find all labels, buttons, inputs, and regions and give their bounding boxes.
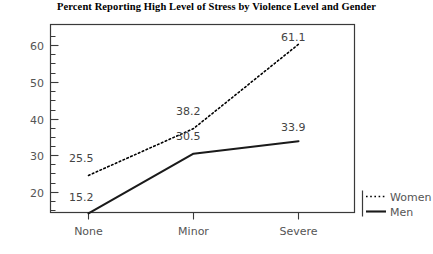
data-label-men-none: 15.2 — [69, 191, 94, 204]
x-tick-label-minor: Minor — [178, 225, 209, 238]
chart-plot-area: 60 50 40 30 20 None Minor Severe 25.5 38… — [0, 0, 433, 254]
y-tick-label-40: 40 — [30, 114, 44, 127]
y-tick-label-50: 50 — [30, 77, 44, 90]
y-axis-major-ticks — [51, 46, 59, 193]
chart-legend: Women Men — [363, 191, 432, 219]
legend-label-women: Women — [390, 191, 431, 204]
data-label-women-severe: 61.1 — [281, 31, 306, 44]
x-tick-label-severe: Severe — [279, 225, 317, 238]
x-axis-ticks — [89, 213, 299, 220]
plot-frame — [51, 25, 355, 213]
y-tick-label-30: 30 — [30, 150, 44, 163]
data-label-women-none: 25.5 — [69, 152, 94, 165]
x-tick-label-none: None — [74, 225, 103, 238]
chart-root: Percent Reporting High Level of Stress b… — [0, 0, 433, 254]
legend-label-men: Men — [390, 206, 413, 219]
data-label-men-minor: 30.5 — [176, 130, 201, 143]
y-tick-label-20: 20 — [30, 187, 44, 200]
y-tick-label-60: 60 — [30, 40, 44, 53]
series-line-men — [89, 141, 299, 213]
y-axis-minor-ticks — [51, 37, 56, 211]
data-label-men-severe: 33.9 — [281, 121, 306, 134]
data-label-women-minor: 38.2 — [176, 105, 201, 118]
